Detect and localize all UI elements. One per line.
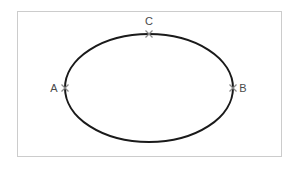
point-label-a: A: [50, 82, 58, 94]
ellipse-outline: [65, 34, 233, 142]
geometry-figure: A B C: [0, 0, 297, 170]
point-label-c: C: [145, 15, 153, 27]
figure-canvas: A B C: [0, 0, 297, 170]
point-label-b: B: [239, 82, 246, 94]
